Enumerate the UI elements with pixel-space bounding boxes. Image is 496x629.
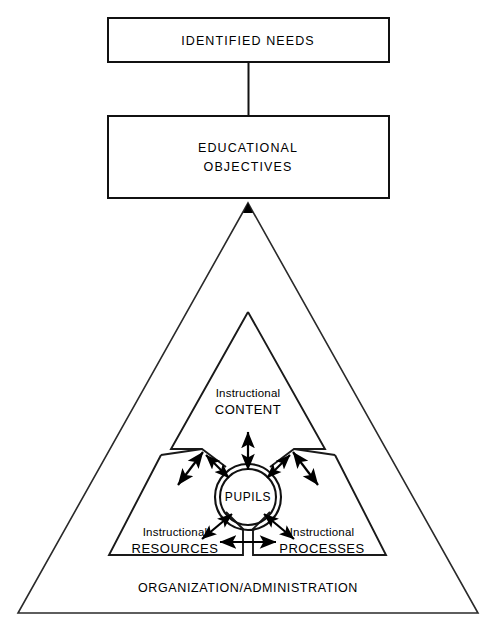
instructional-processes-label-line2: PROCESSES [279,541,364,556]
label-layer: IDENTIFIED NEEDS EDUCATIONAL OBJECTIVES … [0,0,496,629]
instructional-processes-label-line1: Instructional [290,526,355,538]
pupils-label: PUPILS [225,490,271,504]
instructional-resources-label-line1: Instructional [143,526,208,538]
instructional-content-label-line2: CONTENT [215,402,281,417]
organization-administration-label: ORGANIZATION/ADMINISTRATION [138,581,358,595]
educational-objectives-label-line2: OBJECTIVES [204,160,293,174]
diagram-root: IDENTIFIED NEEDS EDUCATIONAL OBJECTIVES … [0,0,496,629]
identified-needs-label: IDENTIFIED NEEDS [181,34,315,48]
instructional-content-label-line1: Instructional [216,387,281,399]
educational-objectives-label-line1: EDUCATIONAL [198,141,298,155]
instructional-resources-label-line2: RESOURCES [132,541,219,556]
